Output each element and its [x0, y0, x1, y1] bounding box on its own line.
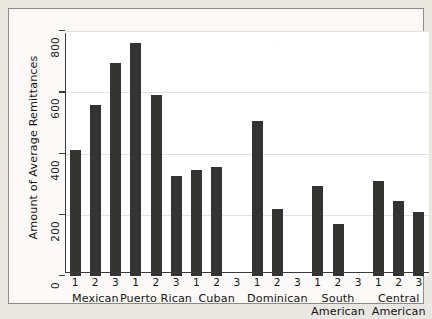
- group-label-line1: Cuban: [198, 292, 234, 305]
- x-axis-group-label: SouthAmerican: [311, 292, 365, 318]
- bar: [130, 43, 141, 276]
- x-axis-group-label: Mexican: [72, 292, 119, 305]
- y-axis-tick-label: 400: [49, 160, 61, 181]
- bar: [211, 167, 222, 276]
- x-axis-group-label: Cuban: [198, 292, 234, 305]
- bar: [90, 105, 101, 277]
- x-axis-tick-label: 3: [233, 276, 240, 288]
- bar: [373, 181, 384, 276]
- x-axis-tick-label: 3: [112, 276, 119, 288]
- group-label-line1: Mexican: [72, 292, 119, 305]
- y-axis-tick-label: 800: [49, 37, 61, 58]
- x-axis-tick-label: 1: [72, 276, 79, 288]
- x-axis-tick-label: 3: [294, 276, 301, 288]
- bar: [191, 170, 202, 276]
- bar: [333, 224, 344, 276]
- bar: [151, 95, 162, 276]
- x-axis-tick-label: 1: [254, 276, 261, 288]
- x-axis-tick-label: 1: [132, 276, 139, 288]
- bar: [272, 209, 283, 276]
- x-axis-tick-label: 1: [193, 276, 200, 288]
- bar: [312, 186, 323, 276]
- bar: [110, 63, 121, 276]
- x-axis-tick-label: 2: [92, 276, 99, 288]
- x-axis-tick-label: 2: [335, 276, 342, 288]
- y-axis-tick: [59, 91, 65, 92]
- y-axis-tick-label: 200: [49, 221, 61, 242]
- y-axis-tick: [59, 30, 65, 31]
- bar: [171, 176, 182, 276]
- y-axis-title: Amount of Average Remittances: [27, 48, 40, 248]
- group-label-line1: Central: [378, 292, 419, 305]
- group-label-line1: Puerto Rican: [120, 292, 192, 305]
- x-axis-group-label: Puerto Rican: [120, 292, 192, 305]
- x-axis-tick-label: 3: [355, 276, 362, 288]
- group-label-line2: American: [372, 305, 426, 318]
- bar: [252, 121, 263, 276]
- chart-page: Amount of Average Remittances 0200400600…: [0, 0, 432, 319]
- bar: [413, 212, 424, 276]
- y-axis-tick: [59, 153, 65, 154]
- group-label-line1: South: [321, 292, 354, 305]
- x-axis-tick-label: 1: [375, 276, 382, 288]
- x-axis-tick-label: 1: [314, 276, 321, 288]
- x-axis-group-label: CentralAmerican: [372, 292, 426, 318]
- y-axis-tick: [59, 275, 65, 276]
- x-axis-tick-label: 2: [395, 276, 402, 288]
- group-label-line2: American: [311, 305, 365, 318]
- x-axis-group-label: Dominican: [247, 292, 308, 305]
- x-axis-tick-label: 2: [274, 276, 281, 288]
- y-axis-tick: [59, 214, 65, 215]
- x-axis-tick-label: 3: [173, 276, 180, 288]
- y-axis-tick-label: 600: [49, 98, 61, 119]
- bar: [70, 150, 81, 276]
- x-axis-line: [65, 272, 429, 273]
- x-axis-tick-label: 2: [153, 276, 160, 288]
- x-axis-tick-label: 2: [213, 276, 220, 288]
- y-axis-line: [65, 33, 66, 273]
- y-axis-tick-label: 0: [49, 282, 61, 289]
- chart-frame: Amount of Average Remittances 0200400600…: [8, 8, 424, 304]
- x-axis-tick-label: 3: [415, 276, 422, 288]
- plot-area: [65, 31, 429, 276]
- group-label-line1: Dominican: [247, 292, 308, 305]
- bar: [393, 201, 404, 276]
- gridline: [65, 31, 429, 32]
